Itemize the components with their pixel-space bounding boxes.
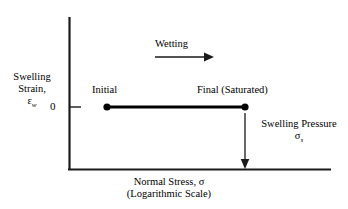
y-axis-title-line1: Swelling [6,71,58,83]
sigma-subscript: s [300,136,303,144]
data-point-final [241,103,248,110]
y-axis-zero-label: 0 [50,100,56,112]
swelling-pressure-symbol: σs [255,130,343,144]
y-axis-title-line2: Strain, [6,83,58,95]
final-point-label: Final (Saturated) [197,84,268,96]
x-axis-title-line2: (Logarithmic Scale) [99,188,239,200]
epsilon-subscript: w [32,101,37,109]
wetting-arrow-head [204,53,214,62]
data-point-initial [103,103,110,110]
wetting-annotation-label: Wetting [155,38,188,50]
initial-point-label: Initial [92,84,117,96]
swelling-pressure-text: Swelling Pressure [255,118,343,130]
swelling-strain-chart: Swelling Strain, εw 0 Normal Stress, σ (… [0,0,348,209]
swelling-pressure-arrow-head [241,159,250,169]
swelling-pressure-annotation: Swelling Pressure σs [255,118,343,144]
x-axis-title-line1: Normal Stress, σ [99,176,239,188]
x-axis-title: Normal Stress, σ (Logarithmic Scale) [99,176,239,200]
